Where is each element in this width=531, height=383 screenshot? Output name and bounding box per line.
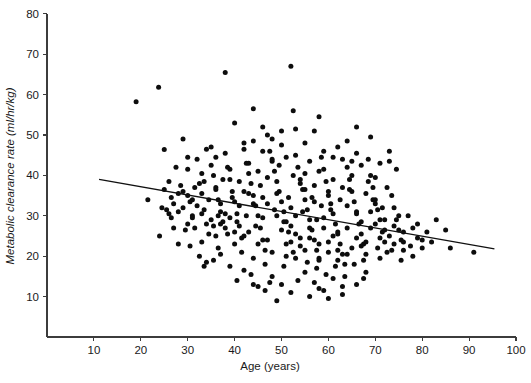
data-point — [359, 231, 364, 236]
data-point — [284, 254, 289, 259]
data-point — [256, 284, 261, 289]
x-tick-label: 50 — [275, 344, 288, 356]
data-point — [302, 187, 307, 192]
data-point — [234, 278, 239, 283]
data-point — [223, 225, 228, 230]
data-point — [307, 225, 312, 230]
data-point — [340, 185, 345, 190]
data-point — [274, 179, 279, 184]
data-point — [305, 260, 310, 265]
data-point — [312, 128, 317, 133]
data-point — [256, 169, 261, 174]
chart-canvas: 1020304050607080 102030405060708090100 A… — [0, 0, 531, 383]
data-point — [389, 193, 394, 198]
data-point — [274, 191, 279, 196]
data-point — [420, 238, 425, 243]
data-point — [326, 250, 331, 255]
data-point — [338, 242, 343, 247]
data-point — [361, 258, 366, 263]
data-point — [241, 147, 246, 152]
data-point — [185, 155, 190, 160]
data-point — [185, 221, 190, 226]
data-point — [298, 244, 303, 249]
data-point — [324, 272, 329, 277]
data-point — [223, 151, 228, 156]
data-point — [326, 296, 331, 301]
data-point — [377, 217, 382, 222]
data-point — [326, 240, 331, 245]
data-point — [246, 229, 251, 234]
data-point — [192, 225, 197, 230]
data-point — [302, 141, 307, 146]
y-axis-ticks: 1020304050607080 — [26, 8, 47, 303]
data-point — [331, 177, 336, 182]
data-point — [281, 219, 286, 224]
data-point — [216, 246, 221, 251]
data-point — [307, 236, 312, 241]
data-point — [345, 225, 350, 230]
data-point — [270, 274, 275, 279]
data-point — [258, 183, 263, 188]
data-point — [270, 250, 275, 255]
data-point — [382, 217, 387, 222]
data-point — [265, 201, 270, 206]
y-tick-label: 30 — [26, 210, 39, 222]
data-point — [377, 256, 382, 261]
data-point — [272, 169, 277, 174]
y-tick-label: 40 — [26, 169, 39, 181]
data-point — [380, 205, 385, 210]
data-point — [370, 197, 375, 202]
x-tick-label: 80 — [416, 344, 429, 356]
data-point — [347, 187, 352, 192]
x-axis-title: Age (years) — [240, 360, 300, 372]
data-point — [188, 244, 193, 249]
data-point — [230, 189, 235, 194]
data-point — [354, 211, 359, 216]
data-point — [209, 163, 214, 168]
data-point — [159, 205, 164, 210]
data-point — [169, 195, 174, 200]
data-point — [368, 209, 373, 214]
data-point — [274, 213, 279, 218]
data-point — [298, 181, 303, 186]
data-point — [312, 280, 317, 285]
data-point — [293, 153, 298, 158]
data-point — [387, 149, 392, 154]
data-point — [363, 191, 368, 196]
x-tick-label: 40 — [228, 344, 241, 356]
data-point — [392, 205, 397, 210]
data-point — [176, 209, 181, 214]
data-point — [171, 225, 176, 230]
data-point — [321, 225, 326, 230]
data-point — [291, 108, 296, 113]
data-point — [211, 173, 216, 178]
y-axis-title: Metabolic clearance rate (ml/hr/kg) — [4, 87, 16, 264]
data-point — [335, 248, 340, 253]
data-point — [244, 213, 249, 218]
data-point — [401, 248, 406, 253]
data-point — [218, 221, 223, 226]
data-point — [354, 236, 359, 241]
data-point — [211, 223, 216, 228]
data-point — [260, 195, 265, 200]
data-point — [279, 282, 284, 287]
data-point — [317, 256, 322, 261]
data-point — [359, 244, 364, 249]
data-point — [471, 250, 476, 255]
data-point — [345, 165, 350, 170]
x-tick-label: 70 — [369, 344, 382, 356]
data-point — [195, 203, 200, 208]
data-point — [420, 246, 425, 251]
data-point — [321, 149, 326, 154]
data-point — [204, 221, 209, 226]
x-tick-label: 100 — [506, 344, 525, 356]
data-point — [265, 175, 270, 180]
data-point — [293, 231, 298, 236]
data-point — [307, 159, 312, 164]
x-axis-ticks: 102030405060708090100 — [88, 337, 526, 356]
data-point — [342, 262, 347, 267]
data-point — [195, 157, 200, 162]
data-point — [260, 238, 265, 243]
data-point — [361, 276, 366, 281]
data-point — [359, 163, 364, 168]
